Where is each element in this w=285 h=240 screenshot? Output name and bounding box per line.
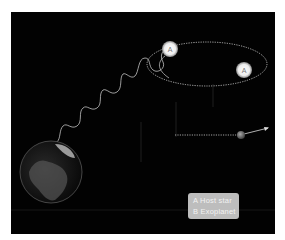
guide-lines bbox=[141, 84, 213, 162]
earth bbox=[20, 141, 82, 203]
legend: A Host star B Exoplanet bbox=[188, 193, 239, 219]
legend-item-exoplanet: B Exoplanet bbox=[193, 206, 239, 217]
light-wave-path bbox=[45, 49, 168, 144]
arrow-head-icon bbox=[264, 127, 269, 131]
host-star-a: A bbox=[162, 41, 178, 57]
svg-text:A: A bbox=[168, 46, 173, 53]
svg-text:A: A bbox=[242, 67, 247, 74]
exoplanet bbox=[237, 131, 245, 139]
exoplanet-path bbox=[175, 127, 269, 139]
diagram-panel: A A A Host star B Exoplanet bbox=[11, 12, 275, 234]
legend-item-host-star: A Host star bbox=[193, 195, 239, 206]
host-star-b: A bbox=[236, 62, 252, 78]
